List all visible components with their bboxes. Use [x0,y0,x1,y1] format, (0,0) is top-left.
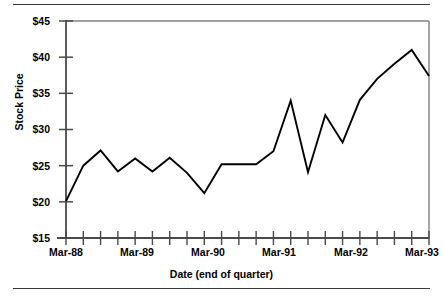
plot-area [0,0,443,298]
stock-price-series-line [66,50,429,201]
stock-price-line-chart: Stock Price Date (end of quarter) $45 $4… [0,0,443,298]
axis-frame [57,20,429,239]
